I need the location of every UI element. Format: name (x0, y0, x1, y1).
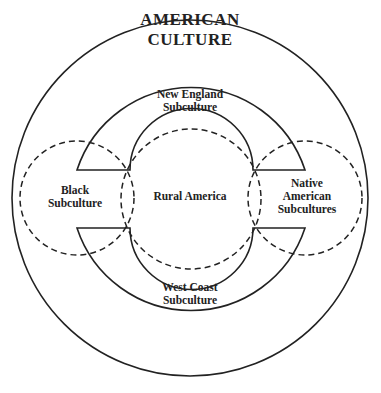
west-coast-line-2: Subculture (130, 294, 250, 307)
new-england-line-1: New England (130, 88, 250, 101)
rural-america-label: Rural America (140, 190, 240, 203)
rural-line-1: Rural America (140, 190, 240, 203)
title-line-1: AMERICAN (110, 10, 270, 30)
new-england-label: New England Subculture (130, 88, 250, 114)
west-coast-label: West Coast Subculture (130, 281, 250, 307)
black-subculture-label: Black Subculture (35, 184, 115, 210)
black-line-1: Black (35, 184, 115, 197)
native-line-2: American (262, 190, 352, 203)
new-england-line-2: Subculture (130, 101, 250, 114)
native-line-3: Subcultures (262, 203, 352, 216)
native-american-label: Native American Subcultures (262, 177, 352, 217)
west-coast-line-1: West Coast (130, 281, 250, 294)
native-line-1: Native (262, 177, 352, 190)
title: AMERICAN CULTURE (110, 10, 270, 49)
black-line-2: Subculture (35, 197, 115, 210)
title-line-2: CULTURE (110, 30, 270, 50)
